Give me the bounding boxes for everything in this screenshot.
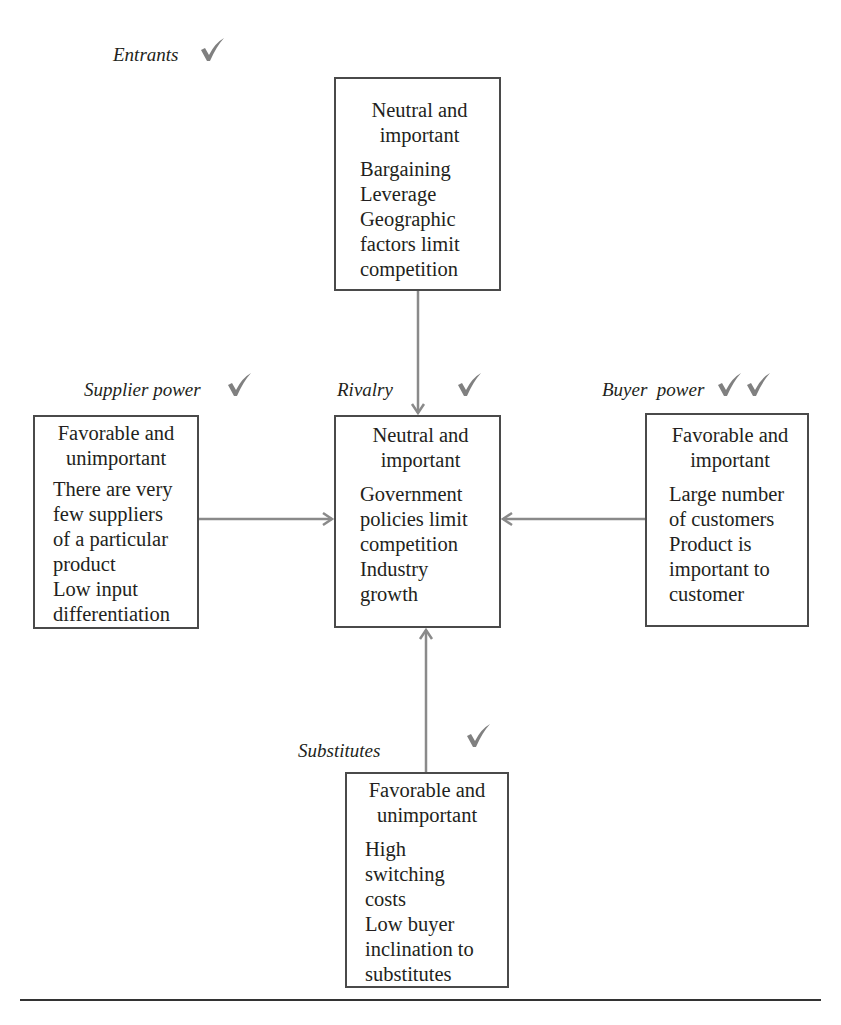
supplier-power-rating: Favorable and unimportant [53,421,191,471]
buyer-power-rating: Favorable and important [669,423,801,473]
rivalry-box: Neutral and important Government policie… [334,415,501,628]
arrow-right-icon [199,509,334,529]
supplier-power-label: Supplier power [84,379,201,401]
checkmark-icon [199,37,225,63]
checkmark-icon [745,372,771,398]
checkmark-icon [716,372,742,398]
rivalry-label: Rivalry [337,379,393,401]
substitutes-factors: High switching costs Low buyer inclinati… [365,837,501,987]
buyer-power-box: Favorable and important Large number of … [645,413,809,627]
buyer-power-factors: Large number of customers Product is imp… [669,482,801,607]
entrants-label: Entrants [113,44,178,66]
checkmark-icon [465,723,491,749]
arrow-left-icon [501,509,645,529]
entrants-factors: Bargaining Leverage Geographic factors l… [360,157,491,282]
supplier-power-box: Favorable and unimportant There are very… [33,415,199,629]
entrants-rating: Neutral and important [360,98,491,148]
checkmark-icon [456,372,482,398]
arrow-up-icon [416,628,436,772]
buyer-power-label: Buyer power [602,379,704,401]
checkmark-icon [226,372,252,398]
bottom-rule-divider [20,999,821,1001]
arrow-down-icon [408,291,428,415]
rivalry-factors: Government policies limit competition In… [360,482,493,607]
substitutes-label: Substitutes [298,740,380,762]
rivalry-rating: Neutral and important [360,423,493,473]
supplier-power-factors: There are very few suppliers of a partic… [53,477,191,627]
substitutes-rating: Favorable and unimportant [365,778,501,828]
entrants-box: Neutral and important Bargaining Leverag… [334,77,501,291]
substitutes-box: Favorable and unimportant High switching… [345,772,509,988]
